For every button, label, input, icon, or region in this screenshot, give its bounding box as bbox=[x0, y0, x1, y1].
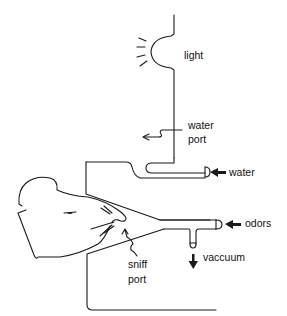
odors-arrow-icon bbox=[225, 220, 241, 229]
water-tube bbox=[146, 158, 210, 177]
water-port-arrow-icon bbox=[143, 130, 182, 140]
funnel-housing-lower bbox=[87, 229, 216, 310]
odors-label: odors bbox=[245, 218, 271, 229]
light-rays-icon bbox=[137, 38, 147, 66]
water-label: water bbox=[229, 167, 255, 178]
sniff-port-label-line1: sniff bbox=[128, 259, 147, 270]
vaccuum-label: vaccuum bbox=[203, 252, 245, 263]
water-arrow-icon bbox=[210, 168, 226, 177]
funnel-housing-upper bbox=[86, 162, 210, 220]
water-port-label-line2: port bbox=[188, 134, 206, 145]
water-port-label-line1: water bbox=[188, 120, 214, 131]
sniff-port-label-line2: port bbox=[128, 274, 146, 285]
vacuum-arrow-icon bbox=[189, 254, 199, 269]
sniff-port-arrow-icon bbox=[122, 229, 137, 256]
light-label: light bbox=[184, 50, 203, 61]
rat-head-icon bbox=[18, 177, 126, 258]
odor-tube bbox=[160, 220, 222, 248]
